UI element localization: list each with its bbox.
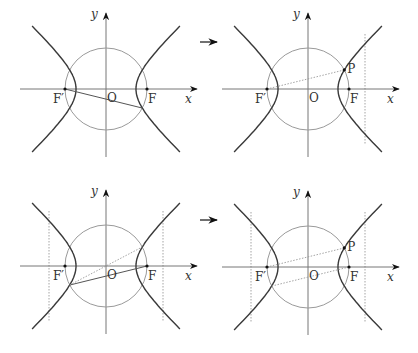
segment-0 <box>267 70 344 89</box>
focus-left-point <box>63 264 66 267</box>
focus-right-point <box>145 264 148 267</box>
panel-2-point-p-on-hyperbola: PyxOF′F <box>200 7 399 157</box>
origin-label: O <box>107 268 117 282</box>
focus-right-label: F <box>350 92 358 106</box>
focus-right-label: F <box>148 92 156 106</box>
origin-label: O <box>309 91 319 105</box>
focus-right-point <box>347 265 350 268</box>
y-axis-label: y <box>90 7 98 21</box>
panel-3-symmetric-segments: yxOF′F <box>20 184 197 334</box>
panel-1-hyperbola-focus-segment: yxOF′F <box>20 7 197 157</box>
focus-right-label: F <box>148 269 156 283</box>
origin-label: O <box>107 91 117 105</box>
panel-4-parallelogram-focal-segments: PyxOF′F <box>200 185 399 335</box>
point-p-label: P <box>347 62 355 76</box>
focus-left-label: F′ <box>255 92 266 106</box>
y-axis-label: y <box>292 7 300 21</box>
focus-right-point <box>145 87 148 90</box>
x-axis-label: x <box>387 270 394 284</box>
focus-left-point <box>265 265 268 268</box>
point-p-label: P <box>347 240 355 254</box>
origin-label: O <box>309 269 319 283</box>
x-axis-label: x <box>185 92 192 106</box>
focus-left-label: F′ <box>53 269 64 283</box>
y-axis-label: y <box>292 185 300 199</box>
focus-left-point <box>265 87 268 90</box>
focus-left-label: F′ <box>53 92 64 106</box>
segment-0 <box>267 248 344 267</box>
x-axis-label: x <box>185 269 192 283</box>
segment-0 <box>65 89 142 108</box>
focus-right-point <box>347 87 350 90</box>
point-p <box>343 68 346 71</box>
x-axis-label: x <box>387 92 394 106</box>
hyperbola-diagram-canvas: yxOF′F PyxOF′F yxOF′F PyxOF′F <box>0 0 418 353</box>
focus-right-label: F <box>350 270 358 284</box>
point-p <box>343 246 346 249</box>
y-axis-label: y <box>90 184 98 198</box>
focus-left-point <box>63 87 66 90</box>
focus-left-label: F′ <box>255 270 266 284</box>
